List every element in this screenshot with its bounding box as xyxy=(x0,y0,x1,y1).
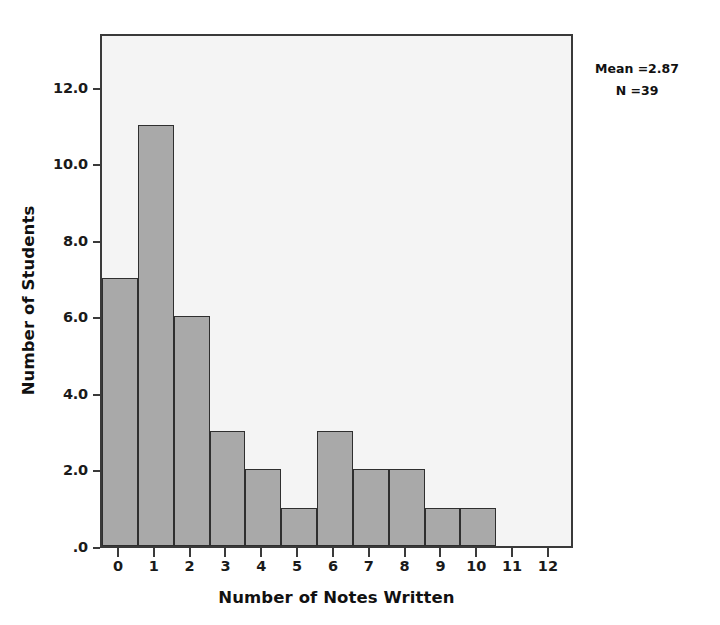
y-axis-title: Number of Students xyxy=(19,201,38,401)
x-axis-tick-label: 4 xyxy=(241,558,281,574)
histogram-bar xyxy=(425,508,461,546)
x-axis-tick-label: 6 xyxy=(313,558,353,574)
x-axis-title: Number of Notes Written xyxy=(100,588,573,607)
plot-area xyxy=(100,34,573,548)
histogram-bar xyxy=(174,316,210,546)
x-axis-tick-label: 3 xyxy=(205,558,245,574)
annotation-text: N =39 xyxy=(567,80,707,102)
x-axis-tick xyxy=(368,548,370,557)
x-axis-tick-label: 10 xyxy=(456,558,496,574)
y-axis-tick-label: 10.0 xyxy=(33,156,88,172)
statistics-annotation: Mean =2.87N =39 xyxy=(567,58,707,102)
histogram-bar xyxy=(281,508,317,546)
x-axis-tick xyxy=(475,548,477,557)
x-axis-tick xyxy=(439,548,441,557)
annotation-text: Mean =2.87 xyxy=(567,58,707,80)
y-axis-tick xyxy=(93,547,100,549)
x-axis-tick-label: 9 xyxy=(420,558,460,574)
histogram-bar xyxy=(389,469,425,546)
histogram-bar xyxy=(460,508,496,546)
x-axis-tick-label: 11 xyxy=(492,558,532,574)
x-axis-tick xyxy=(117,548,119,557)
histogram-bar xyxy=(102,278,138,546)
x-axis-tick xyxy=(332,548,334,557)
y-axis-tick-label: .0 xyxy=(33,539,88,555)
x-axis-tick xyxy=(404,548,406,557)
x-axis-tick xyxy=(511,548,513,557)
x-axis-tick-label: 12 xyxy=(528,558,568,574)
x-axis-tick-label: 8 xyxy=(385,558,425,574)
histogram-bar xyxy=(353,469,389,546)
x-axis-tick xyxy=(224,548,226,557)
histogram-bar xyxy=(245,469,281,546)
x-axis-tick-label: 1 xyxy=(134,558,174,574)
x-axis-tick-label: 2 xyxy=(170,558,210,574)
y-axis-tick xyxy=(93,88,100,90)
histogram-bar xyxy=(317,431,353,546)
y-axis-tick xyxy=(93,241,100,243)
histogram-bar xyxy=(210,431,246,546)
x-axis-tick-label: 0 xyxy=(98,558,138,574)
y-axis-tick xyxy=(93,317,100,319)
y-axis-tick-label: 12.0 xyxy=(33,80,88,96)
y-axis-tick xyxy=(93,164,100,166)
y-axis-tick-label: 6.0 xyxy=(33,309,88,325)
x-axis-tick-label: 7 xyxy=(349,558,389,574)
y-axis-tick-label: 4.0 xyxy=(33,386,88,402)
x-axis-tick xyxy=(547,548,549,557)
x-axis-tick xyxy=(296,548,298,557)
bars-container xyxy=(102,36,571,546)
y-axis-tick xyxy=(93,394,100,396)
x-axis-tick xyxy=(260,548,262,557)
histogram-figure: .02.04.06.08.010.012.0 Number of Student… xyxy=(0,0,720,625)
x-axis-tick xyxy=(153,548,155,557)
y-axis-tick-label: 8.0 xyxy=(33,233,88,249)
x-axis-tick-label: 5 xyxy=(277,558,317,574)
histogram-bar xyxy=(138,125,174,546)
x-axis-tick xyxy=(189,548,191,557)
y-axis-tick-label: 2.0 xyxy=(33,462,88,478)
y-axis-tick xyxy=(93,470,100,472)
